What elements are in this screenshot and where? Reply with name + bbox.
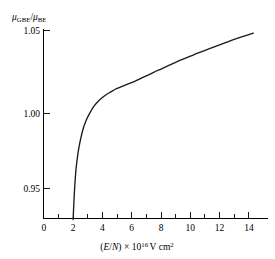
chart-svg: μGBE/μBE 1.05 1.00 0.95: [0, 0, 275, 259]
x-label-paren-close: ): [118, 242, 121, 253]
x-tick-label-8: 8: [159, 223, 164, 233]
y-tick-label-095: 0.95: [23, 184, 40, 194]
x-tick-label-6: 6: [129, 223, 134, 233]
figure-container: μGBE/μBE 1.05 1.00 0.95: [0, 0, 275, 259]
x-label-ten: 10: [132, 242, 142, 252]
x-tick-label-0: 0: [41, 223, 46, 233]
x-label-exp: 16: [141, 241, 148, 248]
x-tick-label-12: 12: [215, 223, 225, 233]
x-tick-label-10: 10: [186, 223, 196, 233]
x-tick-label-2: 2: [71, 223, 76, 233]
x-tick-label-14: 14: [244, 223, 254, 233]
x-label-units-exp: 2: [170, 241, 174, 248]
x-tick-label-4: 4: [100, 223, 105, 233]
y-tick-label-105: 1.05: [23, 26, 40, 36]
y-tick-marks: [44, 30, 50, 188]
y-label-sub2: BE: [38, 16, 47, 23]
y-tick-label-100: 1.00: [23, 109, 40, 119]
x-axis-label: (E/N)×1016V cm2: [100, 241, 174, 253]
x-tick-marks-minor: [58, 214, 234, 219]
data-curve: [73, 33, 253, 219]
x-label-units: V cm: [150, 242, 171, 252]
y-label-sub1: GBE: [17, 16, 31, 23]
x-label-times: ×: [124, 242, 129, 252]
y-axis-label: μGBE/μBE: [11, 12, 47, 23]
